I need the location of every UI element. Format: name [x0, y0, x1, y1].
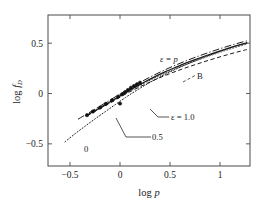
- annotation-epsilon-1: ε = 1.0: [171, 112, 195, 122]
- annotation-b: B: [197, 71, 203, 81]
- data-point-markers: [85, 81, 141, 117]
- data-point: [123, 91, 126, 94]
- x-tick-label: 0: [118, 170, 123, 180]
- leader-b: [183, 75, 196, 82]
- x-tick-label: −0.5: [61, 170, 78, 180]
- figure-container: −0.500.51 −0.500.5 log p log fD ε = p ε …: [0, 0, 266, 208]
- leader-0p5: [116, 118, 151, 137]
- annotation-epsilon-p: ε = p: [160, 54, 178, 64]
- data-point: [104, 102, 107, 105]
- data-point: [98, 106, 101, 109]
- annotation-0p5: 0.5: [152, 132, 163, 142]
- annotation-leaders: [116, 75, 196, 137]
- axes-frame: [48, 15, 250, 166]
- annotation-0: 0: [84, 144, 88, 154]
- x-tick-label: 0.5: [164, 170, 176, 180]
- leader-epsilon-1: [150, 109, 169, 117]
- y-tick-label: 0: [38, 89, 43, 99]
- y-axis-ticks: [48, 43, 250, 144]
- x-tick-labels: −0.500.51: [61, 170, 222, 180]
- x-axis-title: log p: [138, 187, 159, 198]
- plot-frame: [48, 15, 250, 166]
- data-point: [126, 88, 129, 91]
- y-axis-title: log fD: [11, 80, 23, 104]
- data-point: [120, 93, 123, 96]
- curve-epsilon-p: [78, 41, 247, 119]
- curves-group: [65, 41, 247, 142]
- data-point: [116, 95, 119, 98]
- y-tick-labels: −0.500.5: [26, 39, 43, 150]
- x-axis-ticks: [70, 15, 220, 166]
- data-point: [118, 102, 121, 105]
- chart-svg: −0.500.51 −0.500.5 log p log fD ε = p ε …: [0, 0, 266, 208]
- data-point: [138, 81, 141, 84]
- data-point: [110, 99, 113, 102]
- svg-text:log fD: log fD: [11, 80, 23, 104]
- y-tick-label: 0.5: [31, 39, 43, 49]
- data-point: [85, 113, 88, 116]
- x-tick-label: 1: [218, 170, 223, 180]
- curve-epsilon-0: [65, 43, 247, 142]
- y-tick-label: −0.5: [26, 139, 43, 149]
- data-point: [91, 110, 94, 113]
